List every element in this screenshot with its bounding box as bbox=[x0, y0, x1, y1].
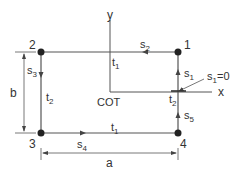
arrow-s5-icon bbox=[176, 112, 181, 118]
segment-s5-label: s5 bbox=[184, 109, 195, 124]
b-arrow-bottom-icon bbox=[22, 126, 26, 132]
thin-walled-section-diagram: y x COT 1 2 3 4 s2 s3 s4 s1 s5 t1 t1 t2 … bbox=[0, 0, 243, 172]
annotation-s1-zero: s1=0 bbox=[207, 70, 230, 85]
arrow-s1-icon bbox=[176, 69, 181, 75]
node-1 bbox=[175, 49, 182, 56]
node-2-label: 2 bbox=[29, 38, 36, 52]
thickness-right-label: t2 bbox=[169, 93, 177, 108]
a-arrow-left-icon bbox=[42, 151, 48, 155]
segment-s3-label: s3 bbox=[27, 64, 38, 79]
node-1-label: 1 bbox=[184, 38, 191, 52]
arrow-s3-icon bbox=[39, 72, 44, 78]
y-axis-label: y bbox=[107, 8, 113, 22]
dimension-a-label: a bbox=[106, 156, 113, 170]
thickness-left-label: t2 bbox=[46, 91, 54, 106]
b-arrow-top-icon bbox=[22, 53, 26, 59]
origin-label-cot: COT bbox=[97, 96, 121, 108]
thickness-top-label: t1 bbox=[112, 56, 120, 71]
dimension-b bbox=[15, 52, 36, 133]
node-4-label: 4 bbox=[180, 137, 187, 151]
node-3 bbox=[38, 130, 45, 137]
thickness-bottom-label: t1 bbox=[111, 121, 119, 136]
dimension-b-label: b bbox=[10, 86, 17, 100]
coordinate-axes bbox=[110, 20, 212, 92]
node-3-label: 3 bbox=[29, 137, 36, 151]
x-axis-label: x bbox=[218, 85, 224, 99]
segment-s1-label: s1 bbox=[184, 67, 195, 82]
a-arrow-right-icon bbox=[171, 151, 177, 155]
node-4 bbox=[175, 130, 182, 137]
segment-s2-label: s2 bbox=[140, 38, 151, 53]
segment-s4-label: s4 bbox=[77, 138, 88, 153]
arrow-s4-icon bbox=[80, 131, 86, 136]
node-2 bbox=[38, 49, 45, 56]
